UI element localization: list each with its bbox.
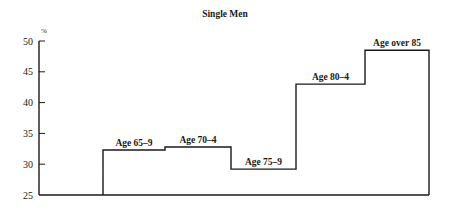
- y-tick-label: 45: [23, 66, 33, 77]
- step-label: Age 75–9: [245, 157, 282, 167]
- step-line: [103, 50, 429, 195]
- step-label: Age 70–4: [179, 135, 216, 145]
- step-label: Age 65–9: [115, 138, 152, 148]
- y-tick-label: 50: [23, 36, 33, 47]
- step-label: Age 80–4: [312, 72, 349, 82]
- y-tick-label: 40: [23, 97, 33, 108]
- step-chart: 253035404550%Age 65–9Age 70–4Age 75–9Age…: [0, 0, 450, 211]
- step-label: Age over 85: [373, 38, 421, 48]
- y-unit-label: %: [41, 27, 47, 35]
- y-tick-label: 35: [23, 128, 33, 139]
- y-tick-label: 30: [23, 159, 33, 170]
- y-tick-label: 25: [23, 190, 33, 201]
